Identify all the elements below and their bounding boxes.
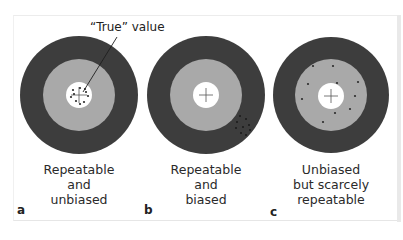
caption-c-line-3: repeatable [266, 192, 396, 207]
panel-letter-c: c [270, 205, 277, 219]
caption-a-line-1: Repeatable [14, 162, 144, 177]
panel-letter-b: b [144, 203, 153, 217]
caption-a-line-2: and [14, 177, 144, 192]
caption-b-line-2: and [141, 177, 271, 192]
caption-c: Unbiased but scarcely repeatable [266, 162, 396, 207]
caption-b-line-3: biased [141, 192, 271, 207]
caption-a: Repeatable and unbiased [14, 162, 144, 207]
caption-c-line-1: Unbiased [266, 162, 396, 177]
target-b [147, 36, 265, 154]
caption-c-line-2: but scarcely [266, 177, 396, 192]
caption-a-line-3: unbiased [14, 192, 144, 207]
target-a [20, 36, 138, 154]
target-c [273, 37, 389, 153]
caption-b-line-1: Repeatable [141, 162, 271, 177]
panel-letter-a: a [17, 203, 25, 217]
true-value-annotation: “True” value [90, 20, 165, 34]
caption-b: Repeatable and biased [141, 162, 271, 207]
